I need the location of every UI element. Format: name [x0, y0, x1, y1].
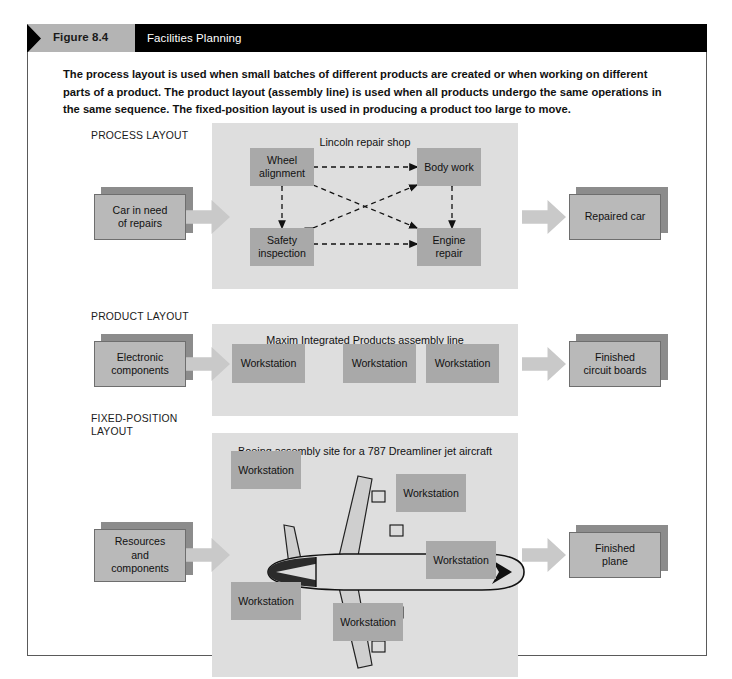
- product-node-workstation-1[interactable]: Workstation: [232, 344, 305, 383]
- process-output-box[interactable]: Repaired car: [569, 194, 661, 240]
- product-node-workstation-2[interactable]: Workstation: [343, 344, 416, 383]
- process-input-box[interactable]: Car in need of repairs: [94, 194, 186, 240]
- process-node-engine-repair[interactable]: Engine repair: [417, 228, 481, 266]
- fixed-position-input-box-label: Resources and components: [94, 529, 186, 582]
- product-output-box-label: Finished circuit boards: [569, 341, 661, 387]
- section-label-process-layout: PROCESS LAYOUT: [91, 129, 188, 142]
- fixed-position-node-workstation-3[interactable]: Workstation: [426, 541, 496, 579]
- fixed-position-node-workstation-5[interactable]: Workstation: [333, 603, 403, 641]
- fixed-position-output-box[interactable]: Finished plane: [569, 532, 661, 578]
- process-node-wheel-alignment[interactable]: Wheel alignment: [250, 148, 314, 186]
- figure-header: Figure 8.4 Facilities Planning: [27, 24, 707, 53]
- fixed-position-output-box-label: Finished plane: [569, 532, 661, 578]
- section-label-product-layout: PRODUCT LAYOUT: [91, 310, 189, 323]
- figure-frame: Figure 8.4 Facilities Planning The proce…: [27, 24, 707, 656]
- fixed-position-node-workstation-1[interactable]: Workstation: [231, 451, 301, 489]
- section-label-fixed-position-layout: FIXED-POSITION LAYOUT: [91, 412, 178, 438]
- fixed-position-node-workstation-2[interactable]: Workstation: [396, 474, 466, 512]
- process-output-arrow: [522, 200, 566, 234]
- product-output-arrow: [522, 347, 566, 381]
- figure-number-label: Figure 8.4: [53, 31, 108, 43]
- figure-intro-text: The process layout is used when small ba…: [63, 66, 673, 119]
- figure-title: Facilities Planning: [147, 32, 242, 44]
- process-layout-caption: Lincoln repair shop: [212, 136, 518, 148]
- product-input-box[interactable]: Electronic components: [94, 341, 186, 387]
- process-output-box-label: Repaired car: [569, 194, 661, 240]
- process-node-safety-inspection[interactable]: Safety inspection: [250, 228, 314, 266]
- figure-body: The process layout is used when small ba…: [27, 52, 707, 656]
- process-input-box-label: Car in need of repairs: [94, 194, 186, 240]
- product-input-box-label: Electronic components: [94, 341, 186, 387]
- fixed-position-output-arrow: [522, 538, 566, 572]
- product-node-workstation-3[interactable]: Workstation: [426, 344, 499, 383]
- fixed-position-node-workstation-4[interactable]: Workstation: [231, 582, 301, 620]
- process-node-body-work[interactable]: Body work: [417, 148, 481, 186]
- fixed-position-input-box[interactable]: Resources and components: [94, 529, 186, 582]
- product-output-box[interactable]: Finished circuit boards: [569, 341, 661, 387]
